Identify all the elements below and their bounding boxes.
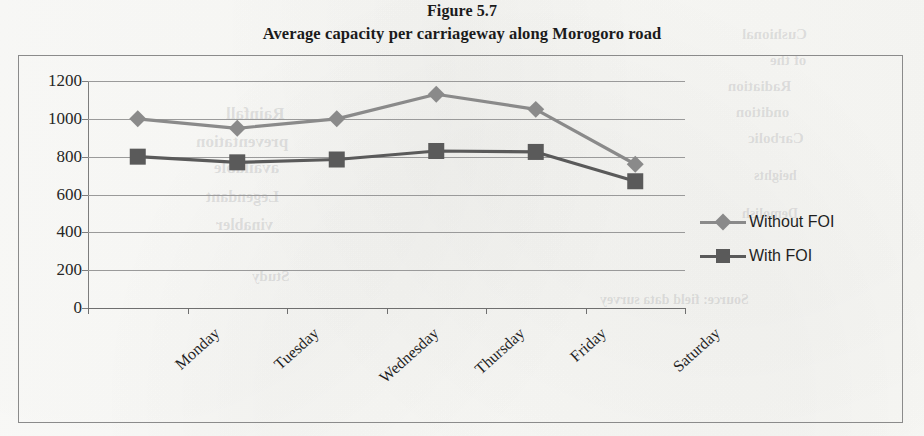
square-marker-icon: [700, 248, 746, 264]
data-point-with-foi-tuesday: [229, 154, 245, 170]
diamond-marker-icon: [700, 214, 746, 230]
data-point-without-foi-thursday: [428, 86, 445, 103]
legend-label: Without FOI: [746, 213, 834, 231]
data-point-with-foi-monday: [130, 149, 146, 165]
y-tick-label-800: 800: [57, 147, 83, 167]
x-tick-6: [685, 308, 686, 314]
data-point-with-foi-friday: [528, 144, 544, 160]
x-tick-4: [486, 308, 487, 314]
x-tick-0: [88, 308, 89, 314]
legend-item-with-foi: With FOI: [700, 239, 890, 273]
data-point-with-foi-saturday: [627, 173, 643, 189]
x-tick-1: [188, 308, 189, 314]
y-tick-label-1000: 1000: [48, 109, 82, 129]
data-point-with-foi-wednesday: [329, 152, 345, 168]
y-tick-label-400: 400: [57, 222, 83, 242]
chart-legend: Without FOIWith FOI: [700, 205, 890, 273]
y-tick-label-600: 600: [57, 185, 83, 205]
y-tick-label-1200: 1200: [48, 71, 82, 91]
figure-title: Average capacity per carriageway along M…: [0, 24, 924, 44]
x-tick-5: [586, 308, 587, 314]
y-tick-label-200: 200: [57, 260, 83, 280]
data-point-without-foi-wednesday: [328, 110, 345, 127]
data-point-without-foi-friday: [527, 101, 544, 118]
legend-item-without-foi: Without FOI: [700, 205, 890, 239]
y-axis-labels: 020040060080010001200: [20, 81, 82, 308]
data-point-without-foi-saturday: [627, 156, 644, 173]
figure-label: Figure 5.7: [0, 2, 924, 20]
data-point-without-foi-tuesday: [229, 120, 246, 137]
plot-area: [88, 81, 685, 308]
x-tick-3: [387, 308, 388, 314]
series-line-with-foi: [138, 151, 636, 181]
x-tick-2: [287, 308, 288, 314]
data-point-without-foi-monday: [129, 110, 146, 127]
series-layer: [88, 81, 685, 308]
legend-label: With FOI: [746, 247, 812, 265]
y-tick-label-0: 0: [74, 298, 83, 318]
data-point-with-foi-thursday: [428, 143, 444, 159]
